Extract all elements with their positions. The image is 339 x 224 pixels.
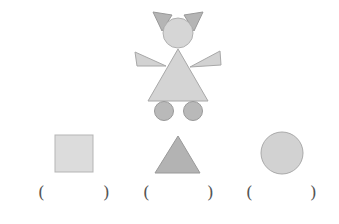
option-circle	[261, 132, 303, 174]
right-foot-circle	[184, 102, 203, 121]
cat-figure	[135, 12, 221, 121]
right-arm-triangle	[190, 51, 221, 67]
shape-composition-diagram	[0, 0, 339, 224]
answer-blank-1-close: )	[103, 182, 110, 202]
answer-blank-2-open: (	[143, 182, 150, 202]
option-square	[55, 135, 93, 172]
answer-blank-2-close: )	[207, 182, 214, 202]
left-arm-triangle	[135, 52, 166, 66]
head-circle	[163, 18, 193, 48]
option-triangle	[155, 136, 200, 173]
answer-blank-3-close: )	[310, 182, 317, 202]
left-foot-circle	[155, 102, 174, 121]
body-triangle	[148, 49, 208, 101]
answer-blank-3-open: (	[246, 182, 253, 202]
answer-blank-1-open: (	[38, 182, 45, 202]
